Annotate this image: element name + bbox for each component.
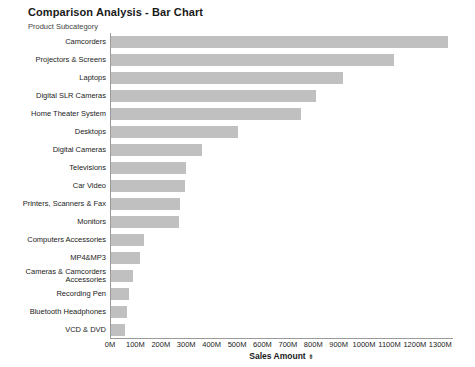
bar-row[interactable] [111, 144, 454, 156]
y-axis-tick-label: Projectors & Screens [2, 56, 106, 65]
x-axis-tick-label: 300M [177, 340, 196, 349]
y-axis-tick-label: Televisions [2, 164, 106, 173]
y-axis-tick-label: Laptops [2, 74, 106, 83]
y-axis-tick-label: Digital SLR Cameras [2, 92, 106, 101]
x-axis-tick-label: 1300M [429, 340, 452, 349]
bar[interactable] [111, 324, 125, 336]
y-axis-tick-label: MP4&MP3 [2, 254, 106, 263]
y-axis-tick-label: Cameras & Camcorders Accessories [2, 268, 106, 285]
x-axis-tick-label: 1000M [353, 340, 376, 349]
bar[interactable] [111, 72, 343, 84]
bar-row[interactable] [111, 324, 454, 336]
bar-row[interactable] [111, 288, 454, 300]
x-axis-tick-label: 100M [126, 340, 145, 349]
y-axis-tick-label: Car Video [2, 182, 106, 191]
x-axis-tick-label: 600M [253, 340, 272, 349]
y-axis-tick-label: Bluetooth Headphones [2, 308, 106, 317]
bar-row[interactable] [111, 126, 454, 138]
x-axis-tick-label: 200M [151, 340, 170, 349]
bar-row[interactable] [111, 36, 454, 48]
bar[interactable] [111, 252, 140, 264]
y-axis-tick-label: Desktops [2, 128, 106, 137]
x-axis-tick-label: 800M [304, 340, 323, 349]
x-axis-tick-label: 1200M [403, 340, 426, 349]
bar[interactable] [111, 288, 129, 300]
bar[interactable] [111, 36, 448, 48]
bar-row[interactable] [111, 72, 454, 84]
bar-row[interactable] [111, 162, 454, 174]
x-axis-title: Sales Amount⇟ [110, 351, 453, 361]
bar[interactable] [111, 216, 179, 228]
x-axis-tick-label: 1100M [378, 340, 400, 349]
bar-row[interactable] [111, 216, 454, 228]
bar[interactable] [111, 90, 316, 102]
chart-container: Comparison Analysis - Bar Chart Product … [0, 0, 475, 367]
bar-series [111, 33, 453, 338]
y-axis-title: Product Subcategory [28, 22, 98, 31]
x-axis-tick-label: 900M [329, 340, 348, 349]
bar[interactable] [111, 54, 394, 66]
bar-row[interactable] [111, 90, 454, 102]
bar-row[interactable] [111, 180, 454, 192]
plot-area [110, 33, 453, 339]
x-axis-title-label: Sales Amount [249, 351, 305, 361]
y-axis-tick-label: VCD & DVD [2, 326, 106, 335]
x-axis-tick-label: 700M [278, 340, 297, 349]
bar[interactable] [111, 306, 127, 318]
bar-row[interactable] [111, 198, 454, 210]
bar[interactable] [111, 144, 202, 156]
bar-row[interactable] [111, 306, 454, 318]
bar-row[interactable] [111, 234, 454, 246]
bar-row[interactable] [111, 108, 454, 120]
y-axis-tick-label: Computers Accessories [2, 236, 106, 245]
bar[interactable] [111, 108, 301, 120]
bar[interactable] [111, 234, 144, 246]
bar-row[interactable] [111, 54, 454, 66]
sort-icon[interactable]: ⇟ [308, 353, 314, 360]
y-axis-tick-label: Digital Cameras [2, 146, 106, 155]
y-axis-tick-label: Monitors [2, 218, 106, 227]
bar[interactable] [111, 180, 185, 192]
chart-title: Comparison Analysis - Bar Chart [28, 6, 203, 18]
bar-row[interactable] [111, 252, 454, 264]
y-axis-tick-label: Printers, Scanners & Fax [2, 200, 106, 209]
y-axis-tick-label: Camcorders [2, 38, 106, 47]
bar[interactable] [111, 270, 133, 282]
bar[interactable] [111, 162, 186, 174]
bar[interactable] [111, 126, 238, 138]
y-axis-tick-labels: CamcordersProjectors & ScreensLaptopsDig… [0, 33, 106, 339]
x-axis-tick-label: 0M [105, 340, 115, 349]
y-axis-tick-label: Home Theater System [2, 110, 106, 119]
y-axis-tick-label: Recording Pen [2, 290, 106, 299]
bar[interactable] [111, 198, 180, 210]
bar-row[interactable] [111, 270, 454, 282]
x-axis-tick-label: 400M [202, 340, 221, 349]
x-axis-tick-label: 500M [228, 340, 247, 349]
